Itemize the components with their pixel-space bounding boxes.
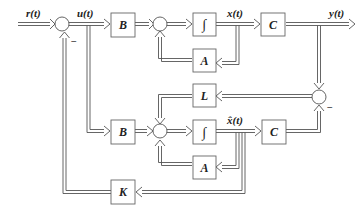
signal-xhat-to-k	[136, 133, 245, 198]
signal-xhat-to-a	[216, 133, 239, 173]
signal-xhatdot-line	[167, 126, 192, 136]
summing-junction-input	[55, 17, 69, 31]
signal-u-line	[69, 19, 110, 29]
signal-bu-hat-line	[135, 126, 153, 136]
label-c-observer: C	[270, 125, 279, 139]
signal-l-line	[155, 95, 192, 125]
label-xhat: x̂(t)	[226, 114, 243, 127]
summing-junction-observer	[153, 124, 167, 138]
summing-junction-error	[312, 90, 326, 104]
signal-u-branch	[87, 26, 110, 137]
signal-axhat-line	[155, 140, 192, 166]
signal-ax-line	[155, 31, 192, 62]
signal-error-line	[216, 91, 312, 101]
signal-y-to-summer3	[314, 26, 324, 90]
signal-xdot-line	[167, 19, 192, 29]
signal-r-line	[18, 19, 55, 29]
signal-yhat-line	[286, 105, 324, 133]
label-a-observer: A	[199, 161, 208, 175]
label-x: x(t)	[226, 7, 243, 20]
minus-sign-error: −	[327, 102, 333, 113]
label-b-plant: B	[118, 18, 127, 32]
label-c-plant: C	[269, 18, 278, 32]
summing-junction-plant	[153, 17, 167, 31]
label-y: y(t)	[327, 7, 344, 20]
label-b-observer: B	[118, 125, 127, 139]
signal-x-to-a	[216, 26, 239, 69]
label-r: r(t)	[26, 7, 41, 20]
label-u: u(t)	[77, 7, 94, 20]
label-a-plant: A	[199, 54, 208, 68]
signal-k-feedback	[60, 32, 112, 194]
signal-x-line	[216, 19, 260, 29]
signal-xhat-line	[216, 126, 261, 136]
label-l-gain: L	[200, 89, 208, 103]
minus-sign-input: −	[71, 36, 77, 47]
signal-bu-line	[135, 19, 154, 29]
block-diagram: B ∫ C A L B ∫ C A K r(t) u(t) x(t) y(t) …	[0, 0, 364, 216]
label-k-gain: K	[118, 185, 128, 199]
